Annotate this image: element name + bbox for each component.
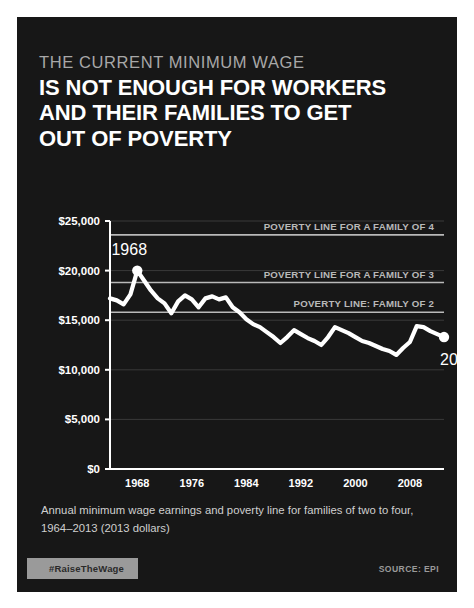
page-title: IS NOT ENOUGH FOR WORKERS AND THEIR FAMI… bbox=[39, 75, 439, 152]
data-point-annotation: 1968 bbox=[111, 241, 147, 258]
hashtag-badge: #RaiseTheWage bbox=[27, 558, 138, 579]
x-tick-label: 2000 bbox=[343, 477, 367, 489]
poverty-line-family-3-label: POVERTY LINE FOR A FAMILY OF 3 bbox=[264, 269, 435, 280]
poverty-line-family-2-label: POVERTY LINE: FAMILY OF 2 bbox=[294, 298, 434, 309]
poverty-line-family-4-label: POVERTY LINE FOR A FAMILY OF 4 bbox=[264, 221, 435, 232]
data-point-marker bbox=[132, 265, 142, 275]
x-tick-label: 1992 bbox=[289, 477, 313, 489]
x-tick-label: 1968 bbox=[125, 477, 149, 489]
gridlines-group bbox=[110, 221, 444, 419]
source-credit: SOURCE: EPI bbox=[379, 564, 439, 574]
x-axis-ticks-group: 196819761984199220002008 bbox=[125, 477, 422, 489]
y-tick-label: $15,000 bbox=[58, 314, 100, 326]
kicker-text: THE CURRENT MINIMUM WAGE bbox=[39, 53, 439, 72]
y-tick-label: $25,000 bbox=[58, 215, 100, 227]
headline-line-3: OUT OF POVERTY bbox=[39, 126, 439, 152]
axes-group bbox=[110, 221, 444, 469]
x-tick-label: 1984 bbox=[234, 477, 259, 489]
y-axis-ticks-group: $0$5,000$10,000$15,000$20,000$25,000 bbox=[58, 215, 110, 475]
headline-line-2: AND THEIR FAMILIES TO GET bbox=[39, 100, 439, 126]
headline-block: THE CURRENT MINIMUM WAGE IS NOT ENOUGH F… bbox=[39, 53, 439, 152]
y-tick-label: $20,000 bbox=[58, 265, 100, 277]
data-point-annotation: 2013 bbox=[440, 351, 457, 368]
chart-caption: Annual minimum wage earnings and poverty… bbox=[41, 502, 435, 537]
data-point-marker bbox=[439, 332, 449, 342]
y-tick-label: $10,000 bbox=[58, 364, 100, 376]
y-tick-label: $5,000 bbox=[65, 413, 100, 425]
x-tick-label: 1976 bbox=[180, 477, 204, 489]
infographic-poster: THE CURRENT MINIMUM WAGE IS NOT ENOUGH F… bbox=[17, 17, 457, 592]
line-chart: $0$5,000$10,000$15,000$20,000$25,000 196… bbox=[17, 195, 457, 495]
y-tick-label: $0 bbox=[87, 463, 100, 475]
headline-line-1: IS NOT ENOUGH FOR WORKERS bbox=[39, 75, 439, 101]
chart-svg: $0$5,000$10,000$15,000$20,000$25,000 196… bbox=[17, 195, 457, 495]
x-tick-label: 2008 bbox=[398, 477, 422, 489]
